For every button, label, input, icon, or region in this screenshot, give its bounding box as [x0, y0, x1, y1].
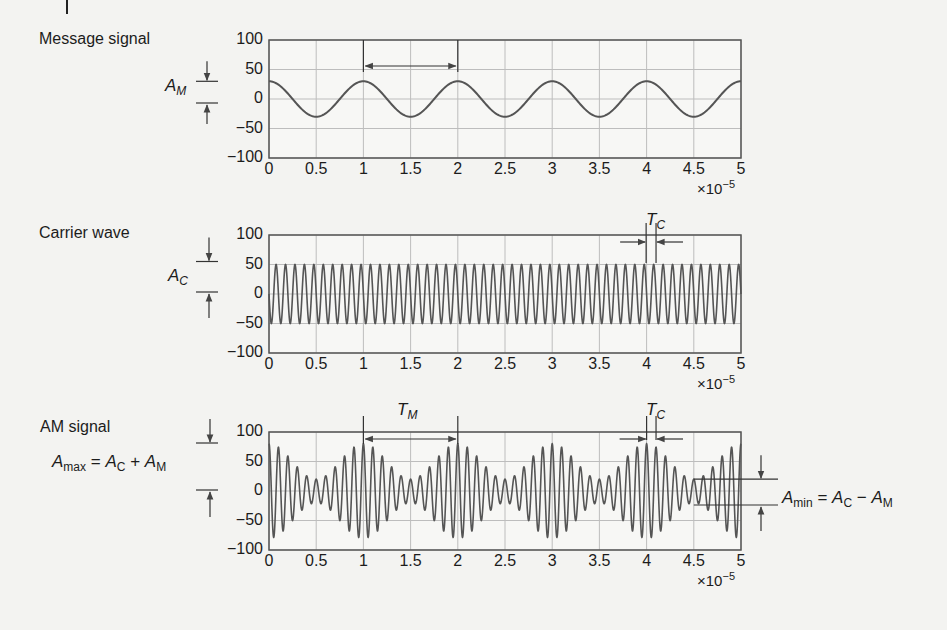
plot-carrier	[269, 235, 741, 353]
plot-am	[269, 432, 741, 550]
chart-canvas	[0, 0, 947, 630]
plot-message	[269, 40, 741, 158]
